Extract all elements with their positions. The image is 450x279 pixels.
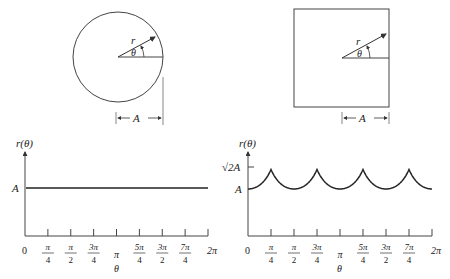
x-tick-denominator: 2 (69, 255, 74, 265)
right-series-curve (248, 170, 432, 189)
x-tick-denominator: 2 (384, 255, 389, 265)
x-tick-denominator: 4 (46, 255, 51, 265)
right-chart: r(θ) √2A A π4π23π4π5π43π27π42π 0 θ (222, 137, 442, 274)
x-tick-denominator: 4 (91, 255, 96, 265)
square-theta-arc (367, 46, 370, 58)
left-y-axis-label: r(θ) (16, 137, 33, 150)
x-tick-numerator: 5π (135, 242, 145, 252)
circle-r-label: r (131, 34, 136, 46)
x-tick-denominator: 4 (183, 255, 188, 265)
circle-dim-label: A (132, 112, 140, 124)
left-y-tick-A: A (11, 182, 19, 194)
x-tick-numerator: 3π (88, 242, 99, 252)
circle-theta-label: θ (131, 47, 136, 58)
right-x-axis-label: θ (337, 263, 342, 274)
left-chart: r(θ) A π4π23π4π5π43π27π42π 0 θ (11, 137, 218, 274)
x-tick-denominator: 4 (361, 255, 366, 265)
x-tick-denominator: 4 (315, 255, 320, 265)
x-tick-numerator: 3π (380, 242, 391, 252)
x-tick-label: π (337, 249, 343, 260)
x-tick-numerator: 7π (404, 242, 414, 252)
x-tick-denominator: 2 (292, 255, 297, 265)
x-tick-denominator: 2 (160, 255, 165, 265)
left-x-ticks: π4π23π4π5π43π27π42π (42, 229, 218, 265)
x-tick-label: π (114, 249, 120, 260)
right-x-ticks: π4π23π4π5π43π27π42π (265, 229, 442, 265)
circle-theta-arc (141, 46, 144, 57)
right-origin-label: 0 (245, 245, 250, 256)
x-tick-label: 2π (431, 245, 442, 256)
right-y-tick-sqrt2A: √2A (222, 161, 241, 173)
right-y-tick-A: A (234, 183, 242, 195)
x-tick-denominator: 4 (269, 255, 274, 265)
x-tick-denominator: 4 (407, 255, 412, 265)
figure: r θ A r θ A r(θ) A π4π23π4π5π43π27π42π 0… (0, 0, 450, 279)
x-tick-numerator: 3π (157, 242, 168, 252)
square-r-label: r (356, 35, 361, 47)
x-tick-label: 2π (207, 245, 218, 256)
right-y-axis-label: r(θ) (239, 137, 256, 150)
square-diagram: r θ A (294, 9, 389, 124)
left-origin-label: 0 (22, 245, 27, 256)
square-dim-label: A (358, 112, 366, 124)
x-tick-numerator: π (68, 242, 73, 252)
x-tick-numerator: π (269, 242, 274, 252)
circle-diagram: r θ A (73, 12, 163, 125)
square-theta-label: θ (357, 48, 362, 59)
x-tick-numerator: 5π (358, 242, 368, 252)
x-tick-numerator: 7π (181, 242, 191, 252)
left-x-axis-label: θ (114, 263, 119, 274)
x-tick-numerator: π (292, 242, 297, 252)
x-tick-numerator: π (46, 242, 51, 252)
square-r-vector (342, 34, 386, 58)
x-tick-denominator: 4 (137, 255, 142, 265)
circle-r-vector (118, 37, 155, 57)
x-tick-numerator: 3π (311, 242, 322, 252)
